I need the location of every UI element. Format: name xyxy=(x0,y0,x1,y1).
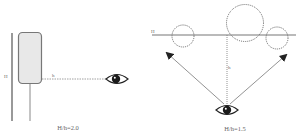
diagram-canvas: H h H/h=2.0 H h H/h=1.5 xyxy=(0,0,303,139)
left-diagram: H h H/h=2.0 xyxy=(4,33,128,132)
vertical-distance-label: h xyxy=(228,65,231,70)
left-sight-arrow xyxy=(167,53,224,104)
viewing-distance-label: h xyxy=(52,73,55,78)
horizon-height-label: H xyxy=(151,29,155,34)
right-diagram: H h H/h=1.5 xyxy=(151,5,296,133)
center-large-circle xyxy=(227,5,264,42)
display-panel xyxy=(19,33,42,84)
left-ratio-caption: H/h=2.0 xyxy=(57,124,79,131)
right-ratio-caption: H/h=1.5 xyxy=(224,125,246,132)
eye-icon xyxy=(216,106,238,115)
wall-height-label: H xyxy=(4,74,8,79)
eye-icon xyxy=(106,75,128,84)
right-small-circle xyxy=(266,27,288,49)
left-small-circle xyxy=(172,25,194,47)
right-sight-arrow xyxy=(230,55,286,104)
